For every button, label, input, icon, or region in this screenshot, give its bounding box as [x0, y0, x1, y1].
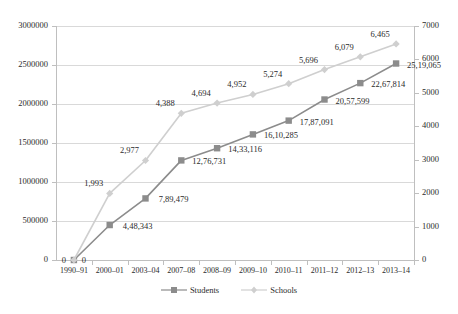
data-point-label: 16,10,285 — [264, 131, 298, 140]
left-axis-tick-mark — [52, 65, 56, 66]
right-axis-tick-mark — [415, 193, 419, 194]
left-axis-tick-mark — [52, 104, 56, 105]
left-axis-tick-label: 500000 — [23, 216, 49, 225]
data-point-label: 0 — [62, 256, 66, 265]
grid-line — [56, 182, 414, 183]
data-point-label: 4,48,343 — [123, 222, 153, 231]
data-point-label: 6,079 — [335, 42, 354, 51]
chart-container: 0500000100000015000002000000250000030000… — [0, 0, 458, 314]
left-axis-tick-label: 1000000 — [18, 177, 48, 186]
x-axis-tick-label: 2009–10 — [239, 266, 267, 275]
legend-item-students[interactable]: Students — [161, 285, 219, 295]
x-axis-tick-mark — [414, 261, 415, 265]
x-axis-tick-label: 2000–01 — [96, 266, 124, 275]
left-axis-tick-label: 2500000 — [18, 60, 48, 69]
data-point-label: 22,67,814 — [371, 80, 405, 89]
x-axis-tick-label: 2010–11 — [275, 266, 303, 275]
right-axis-tick-mark — [415, 260, 419, 261]
data-point-label: 4,388 — [156, 99, 175, 108]
data-point-label: 7,89,479 — [159, 195, 189, 204]
x-axis-tick-mark — [92, 261, 93, 265]
legend-marker-diamond-icon — [241, 285, 267, 295]
left-axis-tick-mark — [52, 143, 56, 144]
x-axis-tick-mark — [378, 261, 379, 265]
legend-label-students: Students — [190, 286, 219, 295]
x-axis-tick-mark — [235, 261, 236, 265]
left-axis-tick-mark — [52, 182, 56, 183]
left-axis-tick-label: 3000000 — [18, 21, 48, 30]
grid-line — [56, 221, 414, 222]
x-axis-tick-label: 2008–09 — [203, 266, 231, 275]
chart-legend: Students Schools — [0, 285, 458, 295]
data-point-label: 20,57,599 — [336, 96, 370, 105]
data-point-label: 17,87,091 — [300, 117, 334, 126]
data-point-label: 6,465 — [371, 29, 390, 38]
legend-marker-square-icon — [161, 285, 187, 295]
right-axis-tick-mark — [415, 26, 419, 27]
left-axis-tick-label: 0 — [44, 255, 48, 264]
right-axis-tick-label: 7000 — [422, 21, 439, 30]
x-axis-tick-label: 2012–13 — [346, 266, 374, 275]
right-axis-tick-mark — [415, 126, 419, 127]
data-point-label: 5,274 — [263, 69, 282, 78]
x-axis-tick-mark — [163, 261, 164, 265]
right-axis-tick-label: 0 — [422, 255, 426, 264]
right-axis-tick-mark — [415, 227, 419, 228]
legend-label-schools: Schools — [270, 286, 297, 295]
data-point-label: 2,977 — [120, 146, 139, 155]
left-axis-tick-mark — [52, 260, 56, 261]
data-point-label: 4,694 — [192, 89, 211, 98]
right-axis-tick-label: 2000 — [422, 188, 439, 197]
grid-line — [56, 65, 414, 66]
left-axis-line — [56, 26, 57, 260]
data-point-label: 1,993 — [84, 179, 103, 188]
right-axis-tick-label: 1000 — [422, 222, 439, 231]
right-axis-tick-label: 5000 — [422, 88, 439, 97]
right-axis-tick-mark — [415, 93, 419, 94]
x-axis-tick-mark — [128, 261, 129, 265]
x-axis-tick-mark — [342, 261, 343, 265]
x-axis-tick-label: 2013–14 — [382, 266, 410, 275]
left-axis-tick-mark — [52, 26, 56, 27]
x-axis-tick-label: 1990–91 — [60, 266, 88, 275]
data-point-label: 0 — [82, 256, 86, 265]
x-axis-tick-mark — [307, 261, 308, 265]
x-axis-tick-label: 2007–08 — [167, 266, 195, 275]
x-axis-tick-label: 2011–12 — [311, 266, 339, 275]
x-axis-tick-mark — [271, 261, 272, 265]
right-axis-tick-label: 4000 — [422, 121, 439, 130]
grid-line — [56, 26, 414, 27]
data-point-label: 12,76,731 — [192, 157, 226, 166]
left-axis-tick-mark — [52, 221, 56, 222]
x-axis-tick-mark — [199, 261, 200, 265]
data-point-label: 5,696 — [299, 55, 318, 64]
x-axis-tick-label: 2003–04 — [132, 266, 160, 275]
data-point-label: 25,19,065 — [407, 60, 441, 69]
right-axis-tick-label: 3000 — [422, 155, 439, 164]
left-axis-tick-label: 1500000 — [18, 138, 48, 147]
left-axis-tick-label: 2000000 — [18, 99, 48, 108]
data-point-label: 14,33,116 — [228, 145, 262, 154]
data-point-label: 4,952 — [227, 80, 246, 89]
legend-item-schools[interactable]: Schools — [241, 285, 297, 295]
right-axis-tick-mark — [415, 160, 419, 161]
